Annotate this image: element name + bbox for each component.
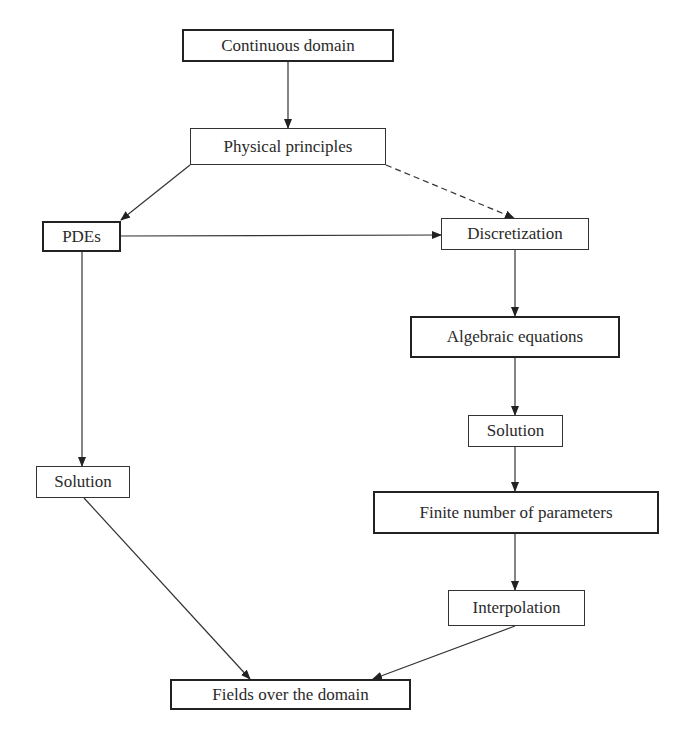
edge-physical-discretization: [386, 165, 514, 218]
node-physical-principles: Physical principles: [190, 128, 386, 165]
node-algebraic-equations: Algebraic equations: [410, 316, 620, 358]
node-discretization: Discretization: [441, 218, 589, 250]
node-interpolation: Interpolation: [448, 590, 585, 626]
node-label: PDEs: [62, 227, 101, 247]
node-solution-right: Solution: [468, 415, 563, 447]
edge-solution-fields: [84, 498, 250, 679]
edge-physical-pdes: [121, 165, 190, 220]
edge-interpolation-fields: [373, 626, 515, 679]
node-solution-left: Solution: [36, 466, 130, 498]
node-finite-parameters: Finite number of parameters: [373, 491, 659, 534]
node-label: Solution: [487, 421, 545, 441]
node-fields-over-domain: Fields over the domain: [170, 679, 411, 710]
node-label: Fields over the domain: [212, 685, 368, 705]
node-pdes: PDEs: [42, 221, 121, 252]
node-label: Solution: [54, 472, 112, 492]
edge-pdes-discretization: [120, 235, 441, 236]
node-label: Continuous domain: [221, 36, 355, 56]
node-continuous-domain: Continuous domain: [182, 29, 394, 62]
node-label: Physical principles: [224, 137, 353, 157]
node-label: Discretization: [467, 224, 562, 244]
node-label: Finite number of parameters: [419, 503, 612, 523]
node-label: Interpolation: [473, 598, 561, 618]
edges-layer: [0, 0, 695, 746]
node-label: Algebraic equations: [447, 327, 583, 347]
